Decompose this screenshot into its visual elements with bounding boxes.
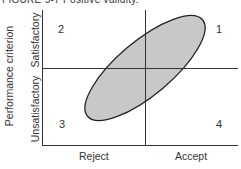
quadrant-4-label: 4	[216, 118, 222, 130]
quadrant-3-label: 3	[59, 118, 65, 130]
y-category-unsatisfactory: Unsatisfactory	[29, 68, 41, 150]
x-category-reject: Reject	[79, 150, 109, 162]
quadrant-1-label: 1	[216, 23, 222, 35]
x-category-accept: Accept	[175, 150, 207, 162]
y-axis-title: Performance criterion	[3, 21, 15, 131]
y-category-satisfactory: Satisfactory	[29, 7, 41, 73]
quadrant-2-label: 2	[58, 23, 64, 35]
